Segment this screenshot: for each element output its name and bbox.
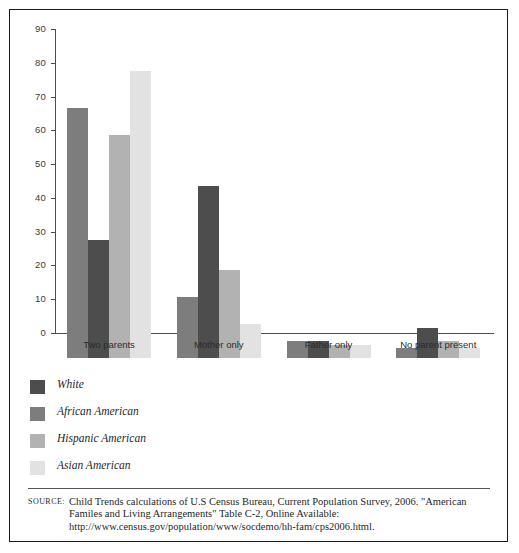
y-axis-tick-label: 60 bbox=[14, 124, 46, 135]
legend-item-label: Hispanic American bbox=[57, 432, 146, 444]
y-axis-tick-label: 50 bbox=[14, 158, 46, 169]
y-axis-tick-mark bbox=[51, 232, 55, 233]
legend-item: Hispanic American bbox=[30, 431, 330, 458]
y-axis-tick-label: 90 bbox=[14, 23, 46, 34]
bar-group bbox=[287, 53, 371, 358]
y-axis-line bbox=[55, 29, 56, 334]
chart-legend: WhiteAfrican AmericanHispanic AmericanAs… bbox=[30, 377, 330, 485]
y-axis-tick-mark bbox=[51, 333, 55, 334]
source-note-label: Source: bbox=[28, 497, 65, 506]
bar bbox=[109, 135, 130, 358]
source-note-body: Child Trends calculations of U.S Census … bbox=[69, 496, 493, 533]
y-axis-tick-mark bbox=[51, 63, 55, 64]
bar bbox=[198, 186, 219, 358]
y-axis-tick-label: 80 bbox=[14, 57, 46, 68]
bar-group bbox=[177, 53, 261, 358]
legend-item-label: Asian American bbox=[57, 459, 131, 471]
legend-item: Asian American bbox=[30, 458, 330, 485]
legend-swatch-icon bbox=[30, 434, 45, 448]
source-divider-rule bbox=[28, 488, 490, 489]
x-axis-category-label: No parent present bbox=[356, 339, 519, 350]
legend-item-label: African American bbox=[57, 405, 139, 417]
plot-area: 0102030405060708090 Two parentsMother on… bbox=[10, 10, 509, 358]
bar bbox=[67, 108, 88, 358]
source-note-line: Familes and Living Arrangements" Table C… bbox=[69, 508, 493, 520]
bar-group bbox=[67, 53, 151, 358]
y-axis-tick-mark bbox=[51, 130, 55, 131]
source-note-line: http://www.census.gov/population/www/soc… bbox=[69, 521, 493, 533]
y-axis-tick-label: 70 bbox=[14, 91, 46, 102]
chart-figure-frame: 0102030405060708090 Two parentsMother on… bbox=[9, 9, 508, 542]
y-axis-tick-mark bbox=[51, 29, 55, 30]
y-axis-tick-mark bbox=[51, 265, 55, 266]
bar-group bbox=[396, 53, 480, 358]
y-axis-tick-mark bbox=[51, 164, 55, 165]
source-note-line: Child Trends calculations of U.S Census … bbox=[69, 496, 493, 508]
source-note: Source: Child Trends calculations of U.S… bbox=[28, 496, 493, 533]
y-axis-tick-mark bbox=[51, 198, 55, 199]
y-axis-tick-label: 40 bbox=[14, 192, 46, 203]
legend-item-label: White bbox=[57, 378, 84, 390]
y-axis-tick-label: 30 bbox=[14, 226, 46, 237]
y-axis-tick-label: 0 bbox=[14, 327, 46, 338]
y-axis-tick-mark bbox=[51, 97, 55, 98]
y-axis-tick-label: 10 bbox=[14, 293, 46, 304]
legend-swatch-icon bbox=[30, 380, 45, 394]
legend-item: African American bbox=[30, 404, 330, 431]
y-axis-tick-label: 20 bbox=[14, 259, 46, 270]
bar bbox=[130, 71, 151, 358]
legend-item: White bbox=[30, 377, 330, 404]
legend-swatch-icon bbox=[30, 461, 45, 475]
legend-swatch-icon bbox=[30, 407, 45, 421]
y-axis-tick-mark bbox=[51, 299, 55, 300]
